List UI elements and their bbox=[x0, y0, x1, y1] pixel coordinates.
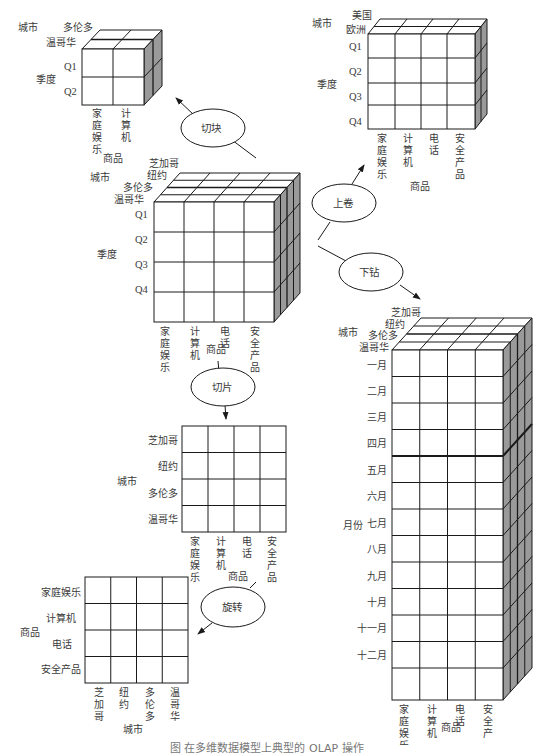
slice-col-char: 乐 bbox=[190, 572, 200, 583]
pivot-row-label: 电话 bbox=[52, 638, 72, 650]
central-city-label: 芝加哥 bbox=[149, 157, 179, 169]
roll-up-row-label: Q4 bbox=[349, 116, 363, 127]
slice-col-axis-label: 商品 bbox=[228, 570, 248, 582]
slice-col-char: 电 bbox=[242, 535, 252, 547]
dice-city-label: 温哥华 bbox=[46, 36, 76, 48]
dice-col-char: 娱 bbox=[92, 131, 102, 143]
roll-up-row-label: Q2 bbox=[349, 66, 362, 77]
slice-row-label: 纽约 bbox=[158, 460, 178, 472]
slice-grid bbox=[182, 426, 286, 532]
roll-up-col-char: 庭 bbox=[377, 144, 387, 156]
central-row-label: Q1 bbox=[135, 209, 148, 220]
slice-col-char: 计 bbox=[216, 535, 226, 547]
drill-down-col-char: 乐 bbox=[399, 740, 409, 745]
dice-row-axis-label: 季度 bbox=[36, 73, 56, 85]
roll-up-col-axis-label: 商品 bbox=[410, 180, 430, 192]
central-row-axis-label: 季度 bbox=[97, 248, 117, 260]
central-city-label: 温哥华 bbox=[114, 193, 144, 205]
drill-down-col-char: 安 bbox=[483, 703, 493, 715]
roll-up-operation-label: 上卷 bbox=[333, 197, 354, 209]
dice-col-char: 计 bbox=[121, 107, 131, 119]
central-col-char: 机 bbox=[190, 349, 200, 361]
central-col-axis-label: 商品 bbox=[206, 343, 226, 355]
roll-up-col-char: 乐 bbox=[377, 169, 387, 180]
pivot-row-axis-label: 商品 bbox=[20, 626, 40, 638]
slice-col-char: 全 bbox=[267, 547, 277, 559]
pivot-col-axis-label: 城市 bbox=[123, 723, 143, 735]
drill-down-row-label: 十二月 bbox=[357, 649, 387, 661]
drill-down-row-label: 一月 bbox=[367, 360, 387, 371]
roll-up-col-char: 机 bbox=[403, 156, 413, 168]
roll-up-col-char: 产 bbox=[455, 156, 465, 168]
dice-operation-label: 切块 bbox=[201, 122, 222, 134]
pivot-col-char: 温 bbox=[170, 687, 180, 698]
roll-up-col-char: 安 bbox=[455, 132, 465, 144]
dice-col-char: 机 bbox=[121, 131, 131, 143]
roll-up-col-char: 娱 bbox=[377, 156, 387, 168]
central-col-char: 计 bbox=[190, 325, 200, 337]
slice-col-char: 算 bbox=[216, 547, 226, 559]
drill-down-col-char: 电 bbox=[455, 703, 465, 715]
central-col-char: 电 bbox=[220, 325, 230, 337]
figure-caption: 图 在多维数据模型上典型的 OLAP 操作 bbox=[170, 739, 364, 755]
roll-up-row-label: Q1 bbox=[349, 41, 362, 52]
drill-down-row-label: 九月 bbox=[367, 571, 387, 582]
roll-up-row-axis-label: 季度 bbox=[317, 78, 337, 90]
pivot-col-char: 纽 bbox=[119, 686, 129, 698]
central-col-char: 家 bbox=[160, 325, 170, 337]
roll-up-col-char: 家 bbox=[377, 132, 387, 144]
drill-down-col-char: 机 bbox=[427, 727, 437, 739]
dice-col-char: 乐 bbox=[92, 144, 102, 155]
roll-up-col-char: 电 bbox=[429, 132, 439, 144]
slice-col-char: 机 bbox=[216, 559, 226, 571]
slice-col-char: 品 bbox=[267, 572, 277, 583]
central-row-label: Q2 bbox=[135, 234, 148, 245]
roll-up-col-char: 计 bbox=[403, 132, 413, 144]
drill-down-col-char: 庭 bbox=[399, 715, 409, 727]
slice-col-char: 家 bbox=[190, 535, 200, 547]
central-cube bbox=[154, 173, 300, 322]
slice-col-char: 娱 bbox=[190, 559, 200, 571]
central-city-label: 多伦多 bbox=[123, 181, 153, 193]
roll-up-col-char: 话 bbox=[429, 145, 439, 156]
central-col-char: 乐 bbox=[160, 362, 170, 373]
roll-up-col-char: 全 bbox=[455, 144, 465, 156]
drill-down-depth-axis-label: 城市 bbox=[338, 326, 358, 338]
roll-up-region-label: 美国 bbox=[352, 9, 372, 21]
drill-down-row-label: 七月 bbox=[367, 518, 387, 529]
pivot-row-label: 家庭娱乐 bbox=[41, 586, 81, 598]
roll-up-cube bbox=[368, 19, 487, 129]
drill-down-col-char: 产 bbox=[483, 727, 493, 739]
slice-row-label: 温哥华 bbox=[148, 513, 178, 525]
central-col-char: 产 bbox=[250, 349, 260, 361]
dice-cube bbox=[82, 30, 162, 105]
central-row-label: Q3 bbox=[135, 259, 148, 270]
drill-down-row-label: 六月 bbox=[367, 491, 387, 502]
central-top-axis-label: 商品 bbox=[103, 152, 123, 164]
central-col-char: 全 bbox=[250, 337, 260, 349]
slice-col-char: 庭 bbox=[190, 547, 200, 559]
drill-down-operation-label: 下钻 bbox=[359, 266, 380, 278]
slice-row-axis-label: 城市 bbox=[117, 475, 137, 487]
roll-up-row-label: Q3 bbox=[349, 91, 362, 102]
roll-up-depth-axis-label: 城市 bbox=[312, 17, 332, 29]
dice-depth-axis-label: 城市 bbox=[18, 21, 38, 33]
central-col-char: 算 bbox=[190, 337, 200, 349]
dice-col-char: 算 bbox=[121, 119, 131, 131]
drill-down-col-char: 全 bbox=[483, 715, 493, 727]
drill-down-col-axis-label: 商品 bbox=[441, 721, 461, 733]
drill-down-row-label: 八月 bbox=[367, 544, 387, 555]
dice-col-char: 家 bbox=[92, 107, 102, 119]
roll-up-region-label: 欧洲 bbox=[346, 24, 366, 35]
central-col-char: 品 bbox=[250, 362, 260, 373]
pivot-row-label: 安全产品 bbox=[41, 663, 81, 675]
roll-up-col-char: 算 bbox=[403, 144, 413, 156]
central-col-char: 庭 bbox=[160, 337, 170, 349]
pivot-row-label: 计算机 bbox=[46, 612, 76, 624]
drill-down-row-label: 五月 bbox=[367, 465, 387, 476]
roll-up-operation: 上卷 bbox=[312, 165, 376, 240]
pivot-col-char: 伦 bbox=[145, 698, 155, 710]
drill-down-city-label: 纽约 bbox=[385, 318, 405, 330]
pivot-col-char: 多 bbox=[145, 686, 155, 698]
